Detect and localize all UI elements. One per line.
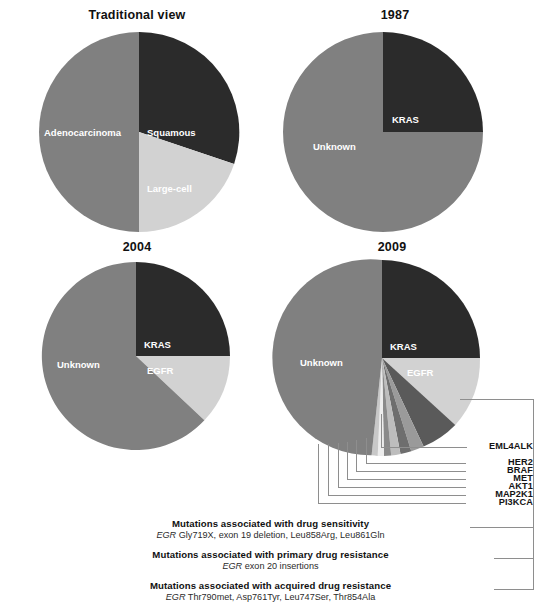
slice-label-squamous: Squamous <box>147 127 196 138</box>
annotation-acquired-resistance: Mutations associated with acquired drug … <box>0 580 541 602</box>
leader-braf-v <box>356 440 357 472</box>
panel-2009: 2009 <box>272 240 512 460</box>
annotation-detail-text-acquired: Thr790met, Asp761Tyr, Leu747Ser, Thr854A… <box>188 592 375 602</box>
annotation-title-primary: Mutations associated with primary drug r… <box>0 549 541 560</box>
slice-label-large-cell: Large-cell <box>147 183 192 194</box>
panel-traditional: Traditional view Adenocarcinoma Squamous… <box>8 8 266 234</box>
leader-map2k1-h <box>328 495 466 496</box>
pie-2009: KRAS EGFR Unknown <box>272 260 512 460</box>
annotation-title-acquired: Mutations associated with acquired drug … <box>0 580 541 591</box>
slice-label-egfr-2009: EGFR <box>407 367 434 378</box>
leader-her2-v <box>366 438 367 464</box>
leader-anno2 <box>494 558 534 559</box>
callout-label-pi3kca: PI3KCA <box>499 497 533 507</box>
gene-name-acquired: EGR <box>166 592 186 602</box>
annotation-detail-sensitivity: EGR Gly719X, exon 19 deletion, Leu858Arg… <box>0 530 541 540</box>
slice-label-egfr-2004: EGFR <box>147 365 174 376</box>
annotation-drug-sensitivity: Mutations associated with drug sensitivi… <box>0 518 541 540</box>
slice-label-kras-2009: KRAS <box>390 341 417 352</box>
panel-title-traditional: Traditional view <box>8 8 266 22</box>
gene-name-sensitivity: EGR <box>156 530 176 540</box>
callout-label-eml4alk: EML4ALK <box>489 441 533 451</box>
panel-title-1987: 1987 <box>280 8 510 22</box>
annotation-detail-acquired: EGR Thr790met, Asp761Tyr, Leu747Ser, Thr… <box>0 592 541 602</box>
pie-2004-svg: KRAS EGFR Unknown <box>8 260 266 456</box>
leader-map2k1-v <box>328 444 329 495</box>
pie-traditional: Adenocarcinoma Squamous Large-cell <box>8 30 266 234</box>
annotation-title-sensitivity: Mutations associated with drug sensitivi… <box>0 518 541 529</box>
leader-anno1 <box>470 527 534 528</box>
leader-braf-h <box>356 471 466 472</box>
slice-label-adenocarcinoma: Adenocarcinoma <box>44 127 122 138</box>
gene-name-primary: EGR <box>222 561 242 571</box>
leader-her2-h <box>366 463 466 464</box>
slice-label-unknown-2009: Unknown <box>300 357 343 368</box>
panel-title-2004: 2004 <box>8 240 266 254</box>
figure-root: Traditional view Adenocarcinoma Squamous… <box>0 0 541 610</box>
panel-2004: 2004 KRAS EGFR Unknown <box>8 240 266 460</box>
annotation-detail-text-sensitivity: Gly719X, exon 19 deletion, Leu858Arg, Le… <box>179 530 385 540</box>
annotation-primary-resistance: Mutations associated with primary drug r… <box>0 549 541 571</box>
leader-anno3 <box>494 589 534 590</box>
slice-label-unknown-1987: Unknown <box>313 141 356 152</box>
slice-label-kras-2004: KRAS <box>144 339 171 350</box>
bottom-edge <box>0 602 541 610</box>
annotation-detail-primary: EGR exon 20 insertions <box>0 561 541 571</box>
leader-met-h <box>347 479 466 480</box>
leader-egfr-bracket-h <box>460 399 534 400</box>
slice-label-kras-1987: KRAS <box>392 114 419 125</box>
pie-1987-svg: KRAS Unknown <box>280 30 510 234</box>
leader-eml4alk-h <box>381 447 467 448</box>
leader-akt1-h <box>338 487 466 488</box>
annotation-detail-text-primary: exon 20 insertions <box>245 561 319 571</box>
pie-1987: KRAS Unknown <box>280 30 510 234</box>
leader-eml4alk-v <box>381 414 382 448</box>
slice-label-unknown-2004: Unknown <box>57 359 100 370</box>
leader-akt1-v <box>338 443 339 487</box>
pie-2009-svg: KRAS EGFR Unknown <box>272 260 512 460</box>
pie-traditional-svg: Adenocarcinoma Squamous Large-cell <box>8 30 266 234</box>
leader-met-v <box>347 442 348 480</box>
panel-title-2009: 2009 <box>272 240 512 254</box>
panel-1987: 1987 KRAS Unknown <box>280 8 510 234</box>
pie-2004: KRAS EGFR Unknown <box>8 260 266 456</box>
leader-pi3kca-h <box>318 503 466 504</box>
leader-pi3kca-v <box>318 444 319 503</box>
